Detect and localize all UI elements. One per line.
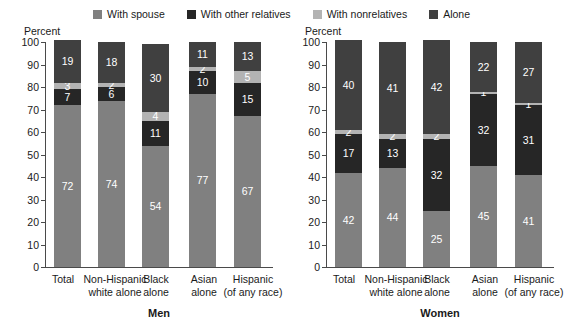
y-tick-label: 90 (27, 59, 39, 70)
bar-men-4[interactable]: 6715513 (234, 42, 261, 267)
x-category-label-2: Blackalone (132, 273, 180, 298)
y-tick-label: 10 (308, 239, 320, 250)
panel-title-men: Men (46, 308, 272, 319)
x-category-line2: alone (132, 286, 180, 299)
bar-value-label: 30 (150, 73, 162, 84)
bar-women-3[interactable]: 4532122 (470, 42, 497, 267)
x-axis-line (45, 267, 273, 268)
bar-value-label: 54 (150, 201, 162, 212)
bar-segment: 2 (423, 134, 450, 139)
bar-value-label: 32 (478, 125, 490, 136)
x-axis-line (326, 267, 554, 268)
y-tick-label: 60 (27, 127, 39, 138)
bar-value-label: 22 (478, 62, 490, 73)
legend-label: Alone (443, 9, 470, 20)
x-category-line1: Hispanic (218, 273, 288, 286)
bar-men-3[interactable]: 7710211 (189, 42, 216, 267)
legend-item-1: With other relatives (187, 9, 291, 20)
bar-women-4[interactable]: 4131127 (515, 42, 542, 267)
bar-women-1[interactable]: 4413241 (379, 42, 406, 267)
bar-segment: 4 (142, 112, 169, 121)
bar-segment: 2 (379, 134, 406, 139)
y-tick-mark (41, 87, 46, 88)
bar-value-label: 77 (197, 175, 209, 186)
bar-value-label: 10 (197, 77, 209, 88)
y-tick-label: 50 (308, 149, 320, 160)
legend-swatch-icon (93, 10, 102, 19)
y-tick-mark (41, 65, 46, 66)
y-tick-mark (41, 110, 46, 111)
bar-segment: 13 (379, 139, 406, 168)
x-category-line1: Hispanic (499, 273, 568, 286)
bar-segment: 31 (515, 105, 542, 175)
x-category-line2: (of any race) (218, 286, 288, 299)
y-tick-mark (322, 65, 327, 66)
bar-value-label: 18 (106, 57, 118, 68)
bar-men-2[interactable]: 5411430 (142, 44, 169, 267)
y-tick-mark (322, 155, 327, 156)
x-category-label-4: Hispanic(of any race) (218, 273, 288, 298)
bar-women-2[interactable]: 2532242 (423, 40, 450, 267)
bar-segment: 3 (54, 83, 81, 90)
y-tick-mark (322, 222, 327, 223)
bar-segment: 45 (470, 166, 497, 267)
chart-panel-women: Percent 10090807060504030201004217240441… (283, 26, 561, 325)
bar-segment: 1 (515, 103, 542, 105)
y-tick-label: 100 (302, 37, 320, 48)
y-tick-label: 40 (27, 172, 39, 183)
panel-title-women: Women (327, 308, 553, 319)
x-category-line1: Black (132, 273, 180, 286)
bar-value-label: 11 (150, 128, 161, 139)
y-tick-mark (322, 267, 327, 268)
y-tick-label: 80 (308, 82, 320, 93)
bar-value-label: 27 (523, 67, 535, 78)
legend-swatch-icon (429, 10, 438, 19)
y-tick-mark (41, 132, 46, 133)
bar-value-label: 4 (153, 111, 159, 122)
y-tick-label: 30 (308, 194, 320, 205)
plot-area-men: 1009080706050403020100727319746218541143… (46, 42, 272, 267)
bar-value-label: 72 (62, 181, 74, 192)
bar-men-0[interactable]: 727319 (54, 40, 81, 267)
y-tick-label: 0 (33, 262, 39, 273)
bar-segment: 2 (98, 83, 125, 88)
bar-men-1[interactable]: 746218 (98, 42, 125, 267)
y-tick-mark (41, 222, 46, 223)
y-tick-label: 60 (308, 127, 320, 138)
y-tick-label: 20 (308, 217, 320, 228)
y-tick-mark (41, 42, 46, 43)
bar-segment: 41 (379, 42, 406, 134)
bar-segment: 19 (54, 40, 81, 83)
bar-segment: 2 (335, 130, 362, 135)
bar-value-label: 13 (242, 51, 254, 62)
bar-segment: 27 (515, 42, 542, 103)
bar-segment: 32 (423, 139, 450, 211)
bar-segment: 18 (98, 42, 125, 83)
bar-segment: 5 (234, 71, 261, 82)
x-category-line2: alone (413, 286, 461, 299)
bar-value-label: 44 (387, 212, 399, 223)
y-tick-mark (41, 177, 46, 178)
bar-value-label: 41 (387, 83, 399, 94)
bar-segment: 30 (142, 44, 169, 112)
bar-value-label: 19 (62, 56, 74, 67)
bar-segment: 44 (379, 168, 406, 267)
legend-swatch-icon (313, 10, 322, 19)
bar-segment: 41 (515, 175, 542, 267)
bar-value-label: 5 (245, 72, 251, 83)
bar-women-0[interactable]: 4217240 (335, 40, 362, 267)
bar-value-label: 42 (343, 215, 355, 226)
y-tick-mark (322, 245, 327, 246)
bar-value-label: 67 (242, 186, 254, 197)
bar-value-label: 41 (523, 216, 535, 227)
x-category-line2: (of any race) (499, 286, 568, 299)
y-tick-mark (322, 87, 327, 88)
bar-value-label: 15 (242, 94, 254, 105)
bar-segment: 42 (335, 173, 362, 268)
y-tick-label: 90 (308, 59, 320, 70)
y-tick-label: 10 (27, 239, 39, 250)
bar-value-label: 40 (343, 80, 355, 91)
bar-segment: 11 (142, 121, 169, 146)
legend-item-0: With spouse (93, 9, 165, 20)
category-labels-men: TotalNon-Hispanicwhite aloneBlackaloneAs… (46, 273, 280, 303)
